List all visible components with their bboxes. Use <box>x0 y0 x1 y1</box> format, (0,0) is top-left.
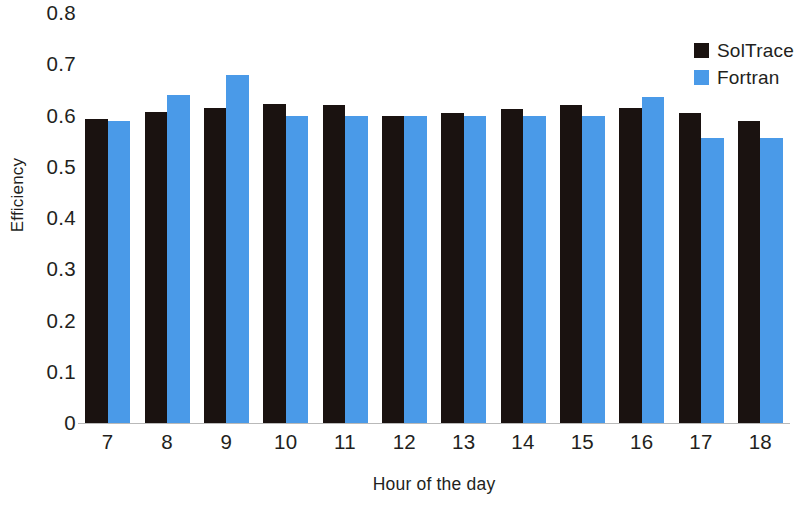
bar-fortran-8 <box>167 95 190 423</box>
bar-fortran-9 <box>226 75 249 424</box>
bar-group <box>204 13 249 423</box>
bar-group <box>263 13 308 423</box>
bar-fortran-12 <box>404 116 427 424</box>
x-tick-label: 13 <box>439 432 489 453</box>
bar-fortran-16 <box>642 97 665 423</box>
bar-group <box>619 13 664 423</box>
bar-fortran-13 <box>464 116 487 424</box>
bar-group <box>382 13 427 423</box>
y-tick-label: 0.5 <box>20 157 76 178</box>
bar-fortran-11 <box>345 116 368 424</box>
y-tick-label: 0.2 <box>20 311 76 332</box>
bar-soltrace-12 <box>382 116 405 424</box>
bar-group <box>323 13 368 423</box>
x-axis-tick-labels: 789101112131415161718 <box>78 432 790 462</box>
y-tick-label: 0.3 <box>20 259 76 280</box>
bar-chart: Efficiency 0.80.70.60.50.40.30.20.10 789… <box>0 0 807 510</box>
bar-group <box>441 13 486 423</box>
bar-fortran-15 <box>582 116 605 424</box>
bar-group <box>145 13 190 423</box>
bar-fortran-7 <box>108 121 131 423</box>
bar-soltrace-18 <box>738 121 761 423</box>
x-axis-title: Hour of the day <box>78 474 790 495</box>
y-tick-label: 0.6 <box>20 106 76 127</box>
y-tick-label: 0 <box>20 413 76 434</box>
bar-group <box>560 13 605 423</box>
legend-label: SolTrace <box>717 41 794 60</box>
bar-soltrace-11 <box>323 105 346 423</box>
x-tick-label: 16 <box>617 432 667 453</box>
legend-item-soltrace: SolTrace <box>694 38 807 63</box>
x-tick-label: 17 <box>676 432 726 453</box>
bar-soltrace-17 <box>679 113 702 423</box>
legend-item-fortran: Fortran <box>694 65 807 90</box>
x-tick-label: 9 <box>201 432 251 453</box>
x-tick-label: 15 <box>557 432 607 453</box>
y-axis-tick-labels: 0.80.70.60.50.40.30.20.10 <box>0 0 76 510</box>
x-tick-label: 11 <box>320 432 370 453</box>
bar-fortran-14 <box>523 116 546 424</box>
chart-legend: SolTraceFortran <box>694 38 807 92</box>
y-tick-label: 0.7 <box>20 54 76 75</box>
y-tick-label: 0.4 <box>20 208 76 229</box>
bar-soltrace-8 <box>145 112 168 423</box>
plot-area <box>78 13 790 423</box>
bar-fortran-10 <box>286 116 309 424</box>
legend-swatch-icon <box>694 70 709 85</box>
x-tick-label: 14 <box>498 432 548 453</box>
y-tick-label: 0.1 <box>20 362 76 383</box>
legend-swatch-icon <box>694 43 709 58</box>
legend-label: Fortran <box>717 68 780 87</box>
bar-fortran-18 <box>760 138 783 423</box>
x-tick-label: 18 <box>735 432 785 453</box>
bar-soltrace-9 <box>204 108 227 423</box>
x-tick-label: 8 <box>142 432 192 453</box>
bar-soltrace-7 <box>85 119 108 423</box>
x-tick-label: 10 <box>261 432 311 453</box>
bar-fortran-17 <box>701 138 724 423</box>
bar-soltrace-16 <box>619 108 642 423</box>
bar-group <box>501 13 546 423</box>
bar-soltrace-14 <box>501 109 524 423</box>
bar-soltrace-15 <box>560 105 583 423</box>
x-tick-label: 7 <box>83 432 133 453</box>
x-axis-baseline <box>78 423 790 424</box>
x-tick-label: 12 <box>379 432 429 453</box>
bar-soltrace-10 <box>263 104 286 423</box>
bar-group <box>85 13 130 423</box>
y-tick-label: 0.8 <box>20 3 76 24</box>
bar-soltrace-13 <box>441 113 464 423</box>
